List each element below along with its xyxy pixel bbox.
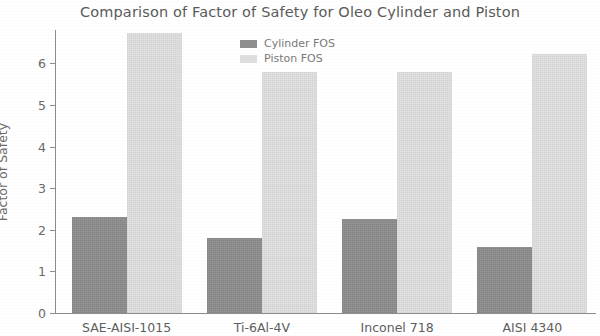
x-tick-label: AISI 4340 <box>503 320 563 335</box>
plot-area: 0123456 SAE-AISI-1015Ti-6Al-4VInconel 71… <box>55 30 596 313</box>
y-tick-label: 2 <box>38 222 46 237</box>
y-axis-line <box>55 30 56 313</box>
y-tick-label: 6 <box>38 56 46 71</box>
bar-piston-1 <box>262 72 317 313</box>
bar-chart: Comparison of Factor of Safety for Oleo … <box>0 0 600 336</box>
y-tick-label: 4 <box>38 139 46 154</box>
chart-legend: Cylinder FOS Piston FOS <box>240 36 335 66</box>
bar-piston-2 <box>397 72 452 313</box>
bar-piston-3 <box>532 54 587 313</box>
x-tick-label: Inconel 718 <box>361 320 434 335</box>
bar-piston-0 <box>127 33 182 314</box>
y-axis-title: Factor of Safety <box>0 123 10 221</box>
y-tick <box>50 271 55 272</box>
y-tick <box>50 313 55 314</box>
y-tick-label: 5 <box>38 97 46 112</box>
y-tick-label: 0 <box>38 306 46 321</box>
legend-label-cylinder: Cylinder FOS <box>264 37 335 50</box>
y-tick <box>50 230 55 231</box>
bar-cylinder-2 <box>342 219 397 313</box>
y-tick <box>50 105 55 106</box>
bar-cylinder-0 <box>72 217 127 313</box>
y-tick <box>50 188 55 189</box>
legend-item-piston-fos: Piston FOS <box>240 51 335 66</box>
y-tick-label: 3 <box>38 181 46 196</box>
y-tick <box>50 147 55 148</box>
x-tick-label: SAE-AISI-1015 <box>82 320 171 335</box>
x-tick-label: Ti-6Al-4V <box>234 320 290 335</box>
x-axis-line <box>55 313 596 314</box>
y-tick <box>50 63 55 64</box>
legend-item-cylinder-fos: Cylinder FOS <box>240 36 335 51</box>
chart-title: Comparison of Factor of Safety for Oleo … <box>0 4 600 20</box>
y-tick-label: 1 <box>38 264 46 279</box>
bar-cylinder-1 <box>207 238 262 313</box>
legend-label-piston: Piston FOS <box>264 52 323 65</box>
bar-cylinder-3 <box>477 247 532 313</box>
legend-swatch-icon-cylinder <box>240 40 257 48</box>
legend-swatch-icon-piston <box>240 55 257 63</box>
